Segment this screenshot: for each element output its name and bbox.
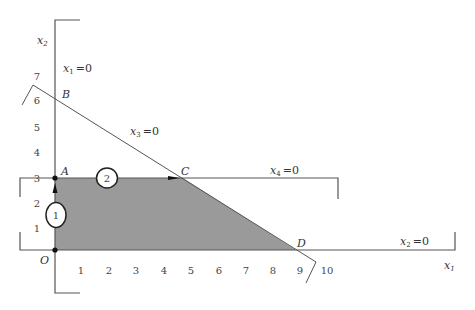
x-tick-1: 1 <box>78 265 84 276</box>
x-tick-8: 8 <box>270 265 276 276</box>
x-tick-9: 9 <box>297 265 303 276</box>
x1-eq-0-label: x1=0 <box>63 62 92 76</box>
x2-eq-0-label: x2=0 <box>400 235 429 249</box>
y-tick-7: 7 <box>34 71 40 82</box>
y-tick-5: 5 <box>34 122 40 133</box>
x-axis-label: x1 <box>444 259 455 273</box>
point-A-dot <box>52 175 57 180</box>
x-tick-10: 10 <box>321 265 334 276</box>
x-tick-3: 3 <box>133 265 139 276</box>
point-B-label: B <box>61 88 70 101</box>
x-tick-6: 6 <box>216 265 222 276</box>
origin-label: O <box>40 254 49 267</box>
x-tick-2: 2 <box>106 265 112 276</box>
x-tick-7: 7 <box>243 265 249 276</box>
step-1-label: 1 <box>53 210 59 221</box>
step-2-label: 2 <box>104 173 110 184</box>
x4-eq-0-label: x4=0 <box>270 164 299 178</box>
point-C-label: C <box>181 165 190 178</box>
y-axis-label: x2 <box>37 34 48 48</box>
x-tick-5: 5 <box>188 265 194 276</box>
lp-diagram: 1 2 B A C D O x2 x1 x1=0 x3=0 x4=0 x2=0 … <box>0 0 475 310</box>
x3-eq-0-label: x3=0 <box>130 125 159 139</box>
feasible-region <box>55 178 296 250</box>
y-tick-2: 2 <box>34 198 40 209</box>
x-tick-4: 4 <box>161 265 167 276</box>
point-A-label: A <box>60 165 69 178</box>
point-D-label: D <box>296 237 306 250</box>
y-tick-6: 6 <box>34 95 40 106</box>
y-axis-line <box>55 20 80 293</box>
y-tick-4: 4 <box>34 147 40 158</box>
point-O-dot <box>52 247 57 252</box>
y-tick-1: 1 <box>34 223 40 234</box>
y-tick-3: 3 <box>34 173 40 184</box>
